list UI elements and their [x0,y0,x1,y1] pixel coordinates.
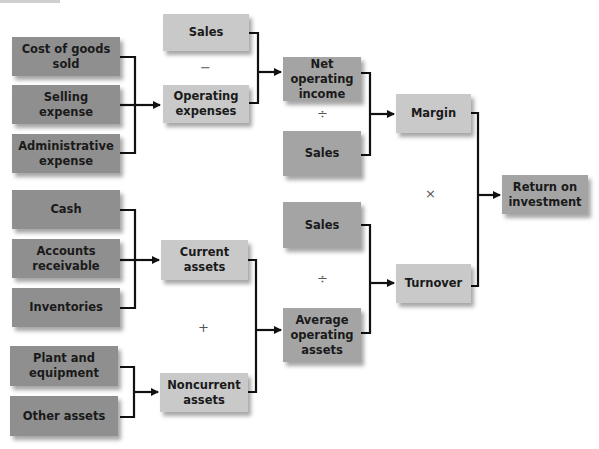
box-current-assets: Current assets [161,240,248,280]
box-net-operating-income: Net operating income [283,57,361,101]
box-other-assets: Other assets [10,396,118,436]
box-return-on-investment: Return on investment [502,175,588,214]
box-turnover: Turnover [396,264,471,303]
box-selling-expense: Selling expense [12,85,120,124]
box-noncurrent-assets: Noncurrent assets [160,373,248,412]
operator-plus: + [198,320,209,335]
box-sales-turnover: Sales [283,202,361,248]
box-administrative-expense: Administrative expense [12,134,120,173]
box-inventories: Inventories [12,288,120,327]
box-sales-margin: Sales [283,131,361,176]
operator-times: × [425,186,436,201]
box-accounts-receivable: Accounts receivable [12,239,120,278]
box-plant-and-equipment: Plant and equipment [10,346,118,386]
box-cash: Cash [12,190,120,229]
box-margin: Margin [396,94,471,133]
operator-divide-turnover: ÷ [317,271,328,286]
box-average-operating-assets: Average operating assets [283,308,361,362]
box-sales-top: Sales [163,14,249,51]
operator-minus: − [200,60,211,75]
operator-divide-margin: ÷ [317,106,328,121]
box-cost-of-goods-sold: Cost of goods sold [12,37,120,76]
box-operating-expenses: Operating expenses [163,85,249,123]
